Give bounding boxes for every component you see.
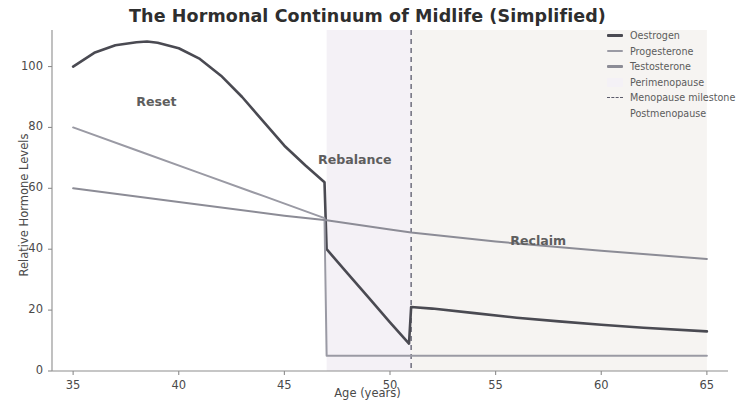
legend-item-progesterone[interactable]: Progesterone [606,44,734,60]
legend-swatch-icon [606,77,624,88]
y-tick-label: 0 [0,363,43,377]
annotation-reset: Reset [136,94,176,109]
legend-item-postmenopause[interactable]: Postmenopause [606,106,734,122]
legend-swatch-icon [606,30,624,41]
legend-swatch-icon [606,46,624,57]
span-perimenopause [327,30,412,371]
legend-swatch-icon [606,61,624,72]
legend-label: Postmenopause [630,108,706,119]
y-axis-title: Relative Hormone Levels [17,95,31,315]
annotation-rebalance: Rebalance [318,152,392,167]
legend-label: Perimenopause [630,77,704,88]
legend-label: Oestrogen [630,30,680,41]
chart-legend: OestrogenProgesteroneTestosteronePerimen… [606,28,734,121]
legend-item-oestrogen[interactable]: Oestrogen [606,28,734,44]
legend-label: Progesterone [630,46,693,57]
legend-swatch-icon [606,108,624,119]
x-axis-title: Age (years) [0,386,735,400]
annotation-reclaim: Reclaim [510,233,566,248]
legend-label: Menopause milestone [630,92,735,103]
legend-item-perimenopause[interactable]: Perimenopause [606,75,734,91]
legend-item-menopause-milestone[interactable]: Menopause milestone [606,90,734,106]
legend-label: Testosterone [630,61,691,72]
legend-item-testosterone[interactable]: Testosterone [606,59,734,75]
y-tick-label: 100 [0,59,43,73]
legend-swatch-icon [606,92,624,103]
